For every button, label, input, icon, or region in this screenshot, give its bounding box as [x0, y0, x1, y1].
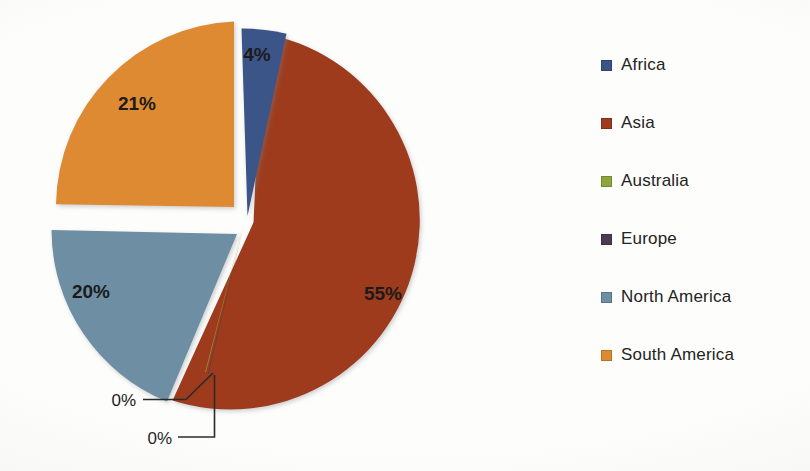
- legend-item-south-america[interactable]: South America: [601, 326, 806, 384]
- legend-swatch-icon-north-america: [601, 292, 612, 303]
- legend-label-asia: Asia: [621, 113, 655, 133]
- legend-item-europe[interactable]: Europe: [601, 210, 806, 268]
- legend-item-asia[interactable]: Asia: [601, 94, 806, 152]
- slice-label-south-america: 21%: [118, 93, 156, 114]
- pie-svg: 4% 21% 20% 55% 0% 0%: [0, 0, 560, 471]
- chart-legend: Africa Asia Australia Europe North Ameri…: [601, 36, 806, 384]
- legend-swatch-icon-asia: [601, 118, 612, 129]
- slice-label-africa: 4%: [243, 44, 271, 65]
- legend-item-australia[interactable]: Australia: [601, 152, 806, 210]
- pie-chart-figure: 4% 21% 20% 55% 0% 0% Africa Asia Austral…: [0, 0, 810, 471]
- slice-label-asia: 55%: [364, 283, 402, 304]
- legend-item-africa[interactable]: Africa: [601, 36, 806, 94]
- legend-label-australia: Australia: [621, 171, 689, 191]
- slice-label-europe: 0%: [147, 429, 172, 448]
- legend-label-south-america: South America: [621, 345, 734, 365]
- pie-plot-area: 4% 21% 20% 55% 0% 0%: [0, 0, 560, 471]
- pie-slice-south-america[interactable]: [56, 22, 234, 208]
- legend-item-north-america[interactable]: North America: [601, 268, 806, 326]
- legend-swatch-icon-australia: [601, 176, 612, 187]
- slice-label-australia: 0%: [111, 391, 136, 410]
- legend-label-africa: Africa: [621, 55, 666, 75]
- legend-swatch-icon-south-america: [601, 350, 612, 361]
- legend-label-europe: Europe: [621, 229, 677, 249]
- legend-swatch-icon-africa: [601, 60, 612, 71]
- slice-label-north-america: 20%: [72, 281, 110, 302]
- legend-label-north-america: North America: [621, 287, 731, 307]
- legend-swatch-icon-europe: [601, 234, 612, 245]
